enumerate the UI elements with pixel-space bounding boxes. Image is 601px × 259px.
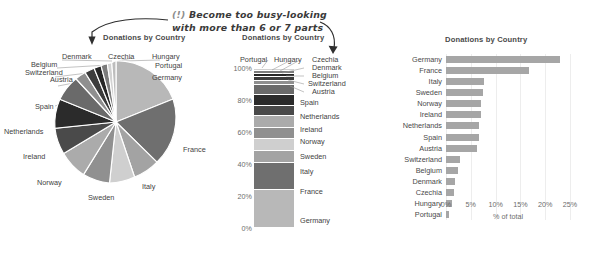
table-row: Belgium xyxy=(446,165,570,176)
bar-fill-netherlands xyxy=(446,122,479,129)
bar-xtick-20: 20% xyxy=(538,200,552,209)
bar-fill-czechia xyxy=(446,189,454,196)
bar-xtick-25: 25% xyxy=(563,200,577,209)
stacked-label-austria: Austria xyxy=(312,87,335,96)
bar-label-denmark: Denmark xyxy=(412,177,442,186)
table-row: Switzerland xyxy=(446,154,570,165)
bar-xtick-5: 5% xyxy=(466,200,476,209)
annotation-line-1: Become too busy-looking xyxy=(189,9,327,20)
bar-chart-title: Donations by Country xyxy=(445,35,527,44)
annotation-marker: (!) xyxy=(172,9,185,20)
table-row: Austria xyxy=(446,143,570,154)
pie-label-switzerland: Switzerland xyxy=(25,68,63,77)
stacked-label-sweden: Sweden xyxy=(300,152,326,161)
bar-label-austria: Austria xyxy=(419,144,442,153)
bar-label-switzerland: Switzerland xyxy=(404,155,442,164)
bar-xtick-10: 10% xyxy=(488,200,502,209)
stacked-label-portugal: Portugal xyxy=(240,55,267,64)
bar-fill-france xyxy=(446,67,529,74)
bar-fill-italy xyxy=(446,78,484,85)
stacked-label-netherlands: Netherlands xyxy=(300,112,339,121)
table-row: Spain xyxy=(446,132,570,143)
bar-x-axis-label: % of total xyxy=(446,212,570,221)
pie-chart-panel: Donations by Country xyxy=(0,30,232,259)
bar-plot-area: Germany France Italy Sweden Norway Irela… xyxy=(446,54,570,220)
bar-label-germany: Germany xyxy=(412,55,442,64)
pie-label-norway: Norway xyxy=(37,178,62,187)
bar-label-hungary: Hungary xyxy=(414,199,442,208)
table-row: Sweden xyxy=(446,87,570,98)
bar-label-czechia: Czechia xyxy=(416,188,442,197)
bar-fill-norway xyxy=(446,100,481,107)
bar-fill-sweden xyxy=(446,89,483,96)
bar-label-netherlands: Netherlands xyxy=(403,121,442,130)
stacked-label-spain: Spain xyxy=(300,98,319,107)
pie-label-czechia: Czechia xyxy=(108,52,134,61)
bar-label-portugal: Portugal xyxy=(415,210,442,219)
table-row: France xyxy=(446,65,570,76)
infographic-canvas: (!) Become too busy-looking with more th… xyxy=(0,0,601,259)
bar-fill-denmark xyxy=(446,178,455,185)
bar-fill-spain xyxy=(446,134,479,141)
bar-fill-germany xyxy=(446,56,560,63)
bar-label-sweden: Sweden xyxy=(416,88,442,97)
pie-label-netherlands: Netherlands xyxy=(4,127,43,136)
pie-label-italy: Italy xyxy=(142,182,155,191)
bar-label-norway: Norway xyxy=(417,99,442,108)
bar-label-spain: Spain xyxy=(423,133,442,142)
pie-label-sweden: Sweden xyxy=(88,193,114,202)
table-row: Denmark xyxy=(446,176,570,187)
pie-label-hungary: Hungary xyxy=(152,52,180,61)
pie-label-portugal: Portugal xyxy=(155,61,182,70)
pie-label-spain: Spain xyxy=(35,102,54,111)
table-row: Netherlands xyxy=(446,120,570,131)
stacked-bar-panel: Donations by Country 100% 80% 60% 40% 20… xyxy=(228,30,390,259)
stacked-label-france: France xyxy=(300,187,323,196)
stacked-label-germany: Germany xyxy=(300,216,330,225)
table-row: Norway xyxy=(446,98,570,109)
stacked-label-italy: Italy xyxy=(300,167,313,176)
stacked-label-norway: Norway xyxy=(300,137,325,146)
bar-fill-belgium xyxy=(446,167,458,174)
horizontal-bar-panel: Donations by Country Germany France Ital… xyxy=(390,30,601,259)
pie-label-ireland: Ireland xyxy=(23,152,45,161)
stacked-label-hungary: Hungary xyxy=(274,55,302,64)
pie-label-denmark: Denmark xyxy=(62,52,92,61)
bar-label-ireland: Ireland xyxy=(420,110,442,119)
bar-fill-switzerland xyxy=(446,156,460,163)
bar-xtick-15: 15% xyxy=(513,200,527,209)
bar-fill-ireland xyxy=(446,111,481,118)
pie-label-germany: Germany xyxy=(152,73,182,82)
table-row: Czechia xyxy=(446,187,570,198)
bar-label-italy: Italy xyxy=(429,77,442,86)
pie-label-france: France xyxy=(183,145,206,154)
bar-label-belgium: Belgium xyxy=(416,166,442,175)
bar-xtick-0: 0% xyxy=(441,200,451,209)
pie-label-belgium: Belgium xyxy=(31,60,57,69)
stacked-label-ireland: Ireland xyxy=(300,125,322,134)
bar-fill-austria xyxy=(446,145,477,152)
table-row: Germany xyxy=(446,54,570,65)
bar-label-france: France xyxy=(419,66,442,75)
table-row: Ireland xyxy=(446,109,570,120)
table-row: Italy xyxy=(446,76,570,87)
gridline-25 xyxy=(570,54,571,220)
